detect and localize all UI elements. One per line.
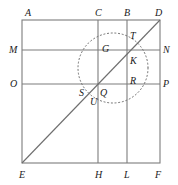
point-label-l: L xyxy=(124,170,130,180)
point-label-m: M xyxy=(9,45,17,55)
point-label-n: N xyxy=(163,45,170,55)
point-label-d: D xyxy=(155,8,162,18)
point-label-b: B xyxy=(124,8,130,18)
point-label-q: Q xyxy=(100,88,107,98)
point-label-t: T xyxy=(130,31,136,41)
point-label-p: P xyxy=(163,79,169,89)
point-label-c: C xyxy=(95,8,102,18)
point-label-a: A xyxy=(25,8,31,18)
point-label-o: O xyxy=(10,79,17,89)
figure-canvas xyxy=(0,0,178,185)
point-label-k: K xyxy=(130,56,137,66)
geometry-figure: ACBDMNOPEHLFTGKRSQU xyxy=(0,0,178,185)
point-label-h: H xyxy=(95,170,102,180)
point-label-e: E xyxy=(19,170,25,180)
point-label-s: S xyxy=(79,88,84,98)
point-label-f: F xyxy=(155,170,161,180)
point-label-r: R xyxy=(130,76,136,86)
point-label-u: U xyxy=(90,97,97,107)
point-label-g: G xyxy=(102,44,109,54)
